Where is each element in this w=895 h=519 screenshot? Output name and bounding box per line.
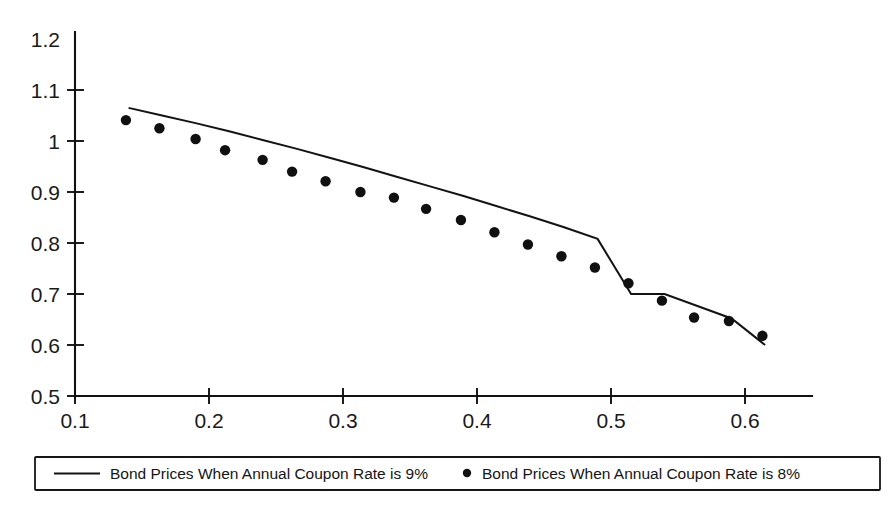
series-dot bbox=[657, 295, 667, 305]
bond-price-chart: 0.50.60.70.80.911.11.2 0.10.20.30.40.50.… bbox=[0, 0, 895, 519]
chart-page: 0.50.60.70.80.911.11.2 0.10.20.30.40.50.… bbox=[0, 0, 895, 519]
x-tick-label: 0.3 bbox=[328, 409, 357, 432]
series-dot bbox=[724, 316, 734, 326]
y-axis-tick-labels: 0.50.60.70.80.911.11.2 bbox=[31, 28, 60, 408]
y-tick-label: 0.5 bbox=[31, 385, 60, 408]
series-dot bbox=[456, 215, 466, 225]
series-dot bbox=[523, 239, 533, 249]
y-tick-label: 1 bbox=[48, 130, 60, 153]
series-dot bbox=[220, 145, 230, 155]
y-axis: 0.50.60.70.80.911.11.2 bbox=[31, 28, 84, 408]
series-dot bbox=[287, 166, 297, 176]
x-axis-tick-labels: 0.10.20.30.40.50.6 bbox=[60, 409, 759, 432]
plot-area bbox=[121, 108, 768, 345]
series-dots-coupon-8-percent bbox=[121, 115, 768, 341]
y-tick-label: 0.8 bbox=[31, 232, 60, 255]
y-tick-label: 1.1 bbox=[31, 79, 60, 102]
series-dot bbox=[421, 204, 431, 214]
x-tick-label: 0.6 bbox=[730, 409, 759, 432]
series-dot bbox=[190, 134, 200, 144]
legend-dot-swatch-icon bbox=[463, 469, 471, 477]
series-dot bbox=[154, 123, 164, 133]
y-tick-label: 0.7 bbox=[31, 283, 60, 306]
y-tick-label: 0.6 bbox=[31, 334, 60, 357]
y-tick-label: 0.9 bbox=[31, 181, 60, 204]
x-tick-label: 0.4 bbox=[462, 409, 492, 432]
series-dot bbox=[489, 227, 499, 237]
series-dot bbox=[757, 331, 767, 341]
legend: Bond Prices When Annual Coupon Rate is 9… bbox=[35, 457, 880, 490]
series-dot bbox=[320, 176, 330, 186]
series-dot bbox=[121, 115, 131, 125]
series-dot bbox=[689, 312, 699, 322]
series-dot bbox=[623, 278, 633, 288]
x-tick-label: 0.2 bbox=[194, 409, 223, 432]
legend-label-coupon-9-percent: Bond Prices When Annual Coupon Rate is 9… bbox=[110, 465, 428, 482]
series-dot bbox=[556, 251, 566, 261]
x-tick-label: 0.1 bbox=[60, 409, 89, 432]
series-line-coupon-9-percent bbox=[129, 108, 766, 345]
x-tick-label: 0.5 bbox=[596, 409, 625, 432]
y-tick-label: 1.2 bbox=[31, 28, 60, 51]
x-axis: 0.10.20.30.40.50.6 bbox=[60, 388, 812, 432]
series-dot bbox=[257, 155, 267, 165]
series-dot bbox=[590, 262, 600, 272]
series-dot bbox=[389, 192, 399, 202]
legend-label-coupon-8-percent: Bond Prices When Annual Coupon Rate is 8… bbox=[482, 465, 800, 482]
series-dot bbox=[355, 187, 365, 197]
